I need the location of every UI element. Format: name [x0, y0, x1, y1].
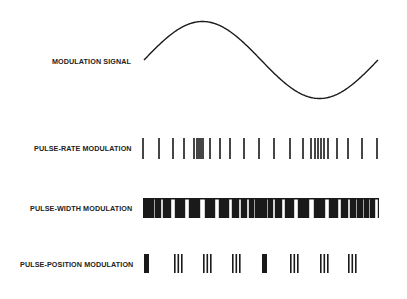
pulse: [314, 138, 316, 159]
pulse-width-train: [143, 198, 379, 218]
sync-pulse: [262, 254, 267, 273]
position-pulse: [239, 254, 241, 273]
pulse-position-train: [144, 254, 357, 273]
pulse: [193, 138, 195, 159]
position-pulse: [320, 254, 322, 273]
position-pulse: [174, 254, 176, 273]
pulse: [198, 138, 200, 159]
pulse: [200, 138, 202, 159]
pulse: [183, 138, 185, 159]
pulse: [258, 138, 260, 159]
modulation-signal-wave: [144, 22, 378, 99]
pulse: [320, 138, 322, 159]
position-pulse: [203, 254, 205, 273]
pulse: [142, 138, 144, 159]
pulse: [302, 138, 304, 159]
position-pulse: [294, 254, 296, 273]
position-pulse: [178, 254, 180, 273]
position-pulse: [297, 254, 299, 273]
position-pulse: [290, 254, 292, 273]
pulse: [209, 138, 211, 159]
pulse: [323, 138, 325, 159]
position-pulse: [352, 254, 354, 273]
position-pulse: [327, 254, 329, 273]
position-pulse: [355, 254, 357, 273]
pulse-rate-train: [142, 138, 378, 159]
sync-pulse: [144, 254, 149, 273]
pulse: [310, 138, 312, 159]
pulse: [289, 138, 291, 159]
position-pulse: [207, 254, 209, 273]
pulse: [376, 138, 378, 159]
pulse: [347, 138, 349, 159]
pulse: [361, 138, 363, 159]
pulse: [317, 138, 319, 159]
pulse: [219, 138, 221, 159]
position-pulse: [232, 254, 234, 273]
position-pulse: [181, 254, 183, 273]
pulse: [243, 138, 245, 159]
pulse: [202, 138, 204, 159]
position-pulse: [348, 254, 350, 273]
pulse: [196, 138, 198, 159]
pulse: [229, 138, 231, 159]
pulse: [336, 138, 338, 159]
modulation-diagram: [0, 0, 407, 299]
pulse: [158, 138, 160, 159]
position-pulse: [236, 254, 238, 273]
pulse: [172, 138, 174, 159]
pulse: [273, 138, 275, 159]
position-pulse: [210, 254, 212, 273]
position-pulse: [324, 254, 326, 273]
pulse: [327, 138, 329, 159]
